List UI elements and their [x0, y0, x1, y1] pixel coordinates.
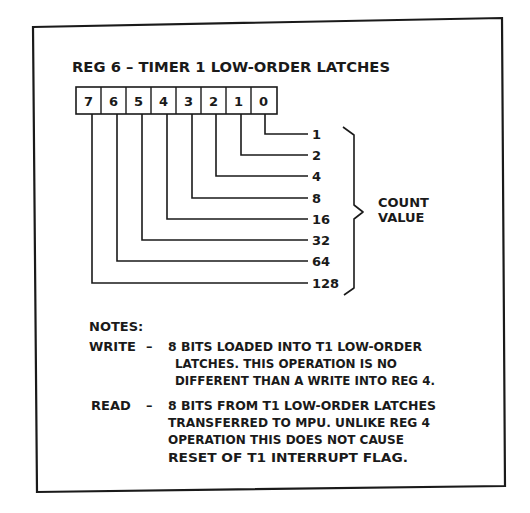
- weight-32: 32: [312, 233, 330, 248]
- bit-2-label: 2: [209, 94, 218, 109]
- write-dash: –: [146, 339, 153, 354]
- count-value-brace: [343, 127, 363, 295]
- write-line-1: 8 BITS LOADED INTO T1 LOW-ORDER: [168, 339, 422, 354]
- weight-8: 8: [312, 191, 321, 206]
- diagram-title: REG 6 – TIMER 1 LOW-ORDER LATCHES: [72, 59, 390, 75]
- leader-bit-0: [265, 114, 308, 134]
- bit-leader-lines: [92, 114, 308, 283]
- write-line-3: DIFFERENT THAN A WRITE INTO REG 4.: [175, 373, 435, 388]
- register-bit-cells: 7 6 5 4 3 2 1 0: [76, 87, 277, 114]
- leader-bit-4: [167, 114, 308, 219]
- leader-bit-2: [216, 114, 308, 176]
- weight-2: 2: [312, 148, 321, 163]
- write-line-2: LATCHES. THIS OPERATION IS NO: [175, 356, 397, 371]
- read-line-3: OPERATION THIS DOES NOT CAUSE: [168, 432, 404, 447]
- read-dash: –: [146, 398, 153, 413]
- read-line-4: RESET OF T1 INTERRUPT FLAG.: [168, 450, 408, 465]
- weight-1: 1: [312, 127, 321, 142]
- weight-64: 64: [312, 254, 330, 269]
- bit-0-label: 0: [259, 94, 268, 109]
- bit-3-label: 3: [184, 94, 193, 109]
- register-diagram: REG 6 – TIMER 1 LOW-ORDER LATCHES 7 6 5 …: [0, 0, 530, 513]
- bit-7-label: 7: [84, 94, 93, 109]
- write-label: WRITE: [89, 339, 136, 354]
- weight-16: 16: [312, 212, 330, 227]
- bit-weight-values: 1 2 4 8 16 32 64 128: [312, 127, 339, 291]
- leader-bit-6: [117, 114, 308, 261]
- notes-heading: NOTES:: [89, 319, 143, 334]
- bit-1-label: 1: [234, 94, 243, 109]
- bit-4-label: 4: [159, 94, 168, 109]
- bit-5-label: 5: [134, 94, 143, 109]
- weight-128: 128: [312, 276, 339, 291]
- brace-label-count: COUNT: [378, 195, 429, 210]
- leader-bit-3: [192, 114, 308, 198]
- read-label: READ: [91, 398, 131, 413]
- read-line-2: TRANSFERRED TO MPU. UNLIKE REG 4: [168, 415, 430, 430]
- weight-4: 4: [312, 169, 321, 184]
- brace-label-value: VALUE: [378, 210, 425, 225]
- notes-section: NOTES: WRITE – 8 BITS LOADED INTO T1 LOW…: [89, 319, 436, 465]
- read-line-1: 8 BITS FROM T1 LOW-ORDER LATCHES: [168, 398, 436, 413]
- bit-6-label: 6: [109, 94, 118, 109]
